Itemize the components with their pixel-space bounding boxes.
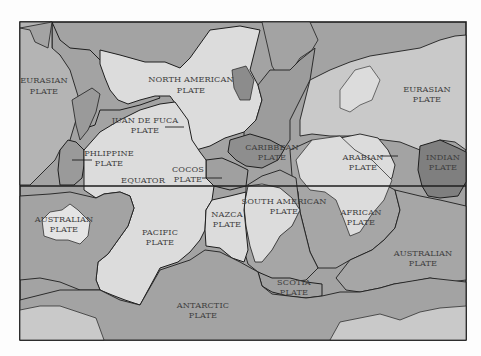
label-equator: EQUATOR	[121, 175, 166, 185]
label-eurasian-west: EURASIAN	[20, 75, 68, 85]
label-juan-de-fuca-2: PLATE	[131, 125, 159, 135]
label-scotia: SCOTIA	[277, 277, 311, 287]
label-australian-west: AUSTRALIAN	[34, 214, 94, 224]
label-philippine: PHLIPPINE	[84, 148, 134, 158]
tectonic-plates-map: EURASIAN PLATE NORTH AMERICAN PLATE EURA…	[0, 0, 481, 356]
label-north-american-2: PLATE	[177, 85, 205, 95]
label-south-american-2: PLATE	[270, 206, 298, 216]
label-eurasian-west-2: PLATE	[30, 86, 58, 96]
label-arabian: ARABIAN	[341, 152, 383, 162]
label-north-american: NORTH AMERICAN	[148, 74, 234, 84]
label-australian-east: AUSTRALIAN	[393, 248, 453, 258]
label-caribbean: CARIBBEAN	[245, 142, 299, 152]
label-african: AFRICAN	[339, 207, 381, 217]
label-antarctic: ANTARCTIC	[176, 300, 229, 310]
label-australian-west-2: PLATE	[50, 224, 78, 234]
label-eurasian-east-2: PLATE	[413, 94, 441, 104]
label-african-2: PLATE	[347, 217, 375, 227]
label-arabian-2: PLATE	[349, 162, 377, 172]
label-eurasian-east: EURASIAN	[403, 84, 451, 94]
label-nazca: NAZCA	[211, 209, 242, 219]
label-philippine-2: PLATE	[95, 158, 123, 168]
label-australian-east-2: PLATE	[409, 258, 437, 268]
label-indian-2: PLATE	[429, 162, 457, 172]
label-pacific-2: PLATE	[146, 237, 174, 247]
label-cocos-2: PLATE	[174, 174, 202, 184]
label-pacific: PACIFIC	[142, 227, 178, 237]
label-cocos: COCOS	[172, 164, 204, 174]
label-indian: INDIAN	[426, 152, 460, 162]
label-juan-de-fuca: JUAN DE FUCA	[111, 115, 179, 125]
label-scotia-2: PLATE	[280, 287, 308, 297]
label-south-american: SOUTH AMERICAN	[242, 196, 327, 206]
label-antarctic-2: PLATE	[189, 310, 217, 320]
label-caribbean-2: PLATE	[258, 152, 286, 162]
label-nazca-2: PLATE	[213, 219, 241, 229]
